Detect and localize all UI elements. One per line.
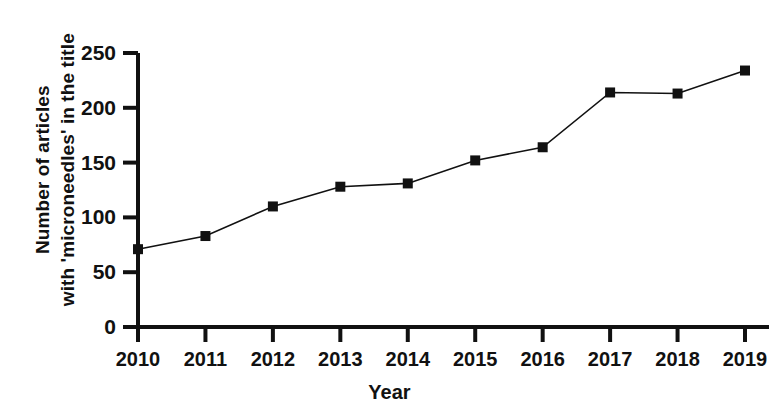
y-axis-tick-label: 50 [93,260,116,283]
data-point-marker [740,66,750,76]
x-axis-title: Year [0,381,779,404]
x-axis-tick-label: 2013 [318,348,363,370]
x-axis-tick-label: 2010 [116,348,161,370]
y-axis-tick-label: 0 [104,315,116,338]
x-axis-tick-label: 2014 [386,348,431,370]
x-axis-ticks [138,327,745,342]
data-point-marker [200,231,210,241]
y-axis-tick-labels: 050100150200250 [81,41,116,338]
data-point-marker [133,244,143,254]
data-point-marker [268,201,278,211]
data-point-marker [605,87,615,97]
x-axis-tick-label: 2012 [251,348,296,370]
data-point-marker [673,89,683,99]
x-axis-tick-label: 2016 [520,348,565,370]
y-axis-tick-label: 250 [81,41,116,64]
y-axis-ticks [123,53,138,327]
x-axis-tick-label: 2011 [184,348,227,370]
data-point-marker [470,155,480,165]
x-axis-tick-label: 2019 [723,348,768,370]
x-axis-tick-label: 2018 [655,348,700,370]
chart-figure: Number of articles with 'microneedles' i… [0,0,779,419]
data-series-line [138,71,745,250]
x-axis-tick-label: 2017 [588,348,633,370]
y-axis-tick-label: 100 [81,205,116,228]
data-point-marker [335,182,345,192]
line-chart-plot: 050100150200250 201020112012201320142015… [0,0,779,419]
data-point-marker [538,142,548,152]
y-axis-tick-label: 200 [81,96,116,119]
data-point-marker [403,178,413,188]
x-axis-tick-labels: 2010201120122013201420152016201720182019 [116,348,768,370]
x-axis-tick-label: 2015 [453,348,498,370]
y-axis-tick-label: 150 [81,151,116,174]
